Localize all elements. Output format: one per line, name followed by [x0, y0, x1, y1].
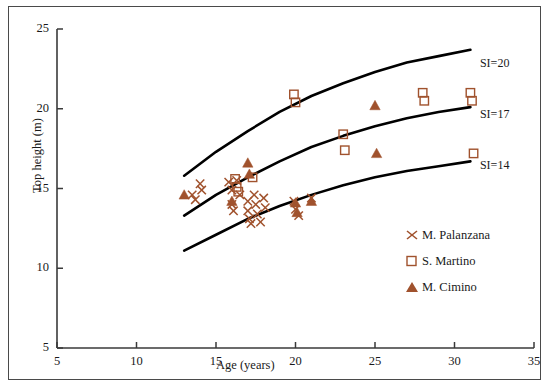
legend-label: M. Palanzana — [422, 228, 490, 243]
legend-square-icon — [404, 254, 420, 268]
x-tick-label: 35 — [519, 354, 549, 369]
x-tick-label: 25 — [360, 354, 390, 369]
si-curve — [184, 50, 470, 176]
marker-square — [341, 146, 349, 154]
legend-triangle-icon — [404, 280, 420, 294]
x-tick-label: 5 — [42, 354, 72, 369]
marker-square — [466, 89, 474, 97]
legend-label: M. Cimino — [422, 280, 477, 295]
x-tick-label: 10 — [122, 354, 152, 369]
si-curve-label: SI=17 — [480, 107, 509, 122]
chart-svg — [0, 0, 551, 390]
si-curve-label: SI=14 — [480, 158, 509, 173]
marker-square — [469, 149, 477, 157]
marker-triangle — [370, 100, 380, 109]
marker-square — [419, 89, 427, 97]
y-tick-label: 25 — [23, 21, 49, 36]
legend-item[interactable]: M. Cimino — [404, 274, 490, 300]
y-tick-label: 10 — [23, 260, 49, 275]
si-curve — [184, 107, 470, 215]
chart-legend: M. PalanzanaS. MartinoM. Cimino — [404, 222, 490, 300]
marker-square — [290, 90, 298, 98]
legend-cross-icon — [404, 228, 420, 242]
y-tick-label: 5 — [23, 340, 49, 355]
x-tick-label: 20 — [281, 354, 311, 369]
y-tick-label: 15 — [23, 181, 49, 196]
legend-label: S. Martino — [422, 254, 475, 269]
marker-triangle — [371, 148, 381, 157]
si-curve-label: SI=20 — [480, 56, 509, 71]
y-tick-label: 20 — [23, 101, 49, 116]
marker-square — [468, 97, 476, 105]
x-tick-label: 30 — [440, 354, 470, 369]
legend-item[interactable]: M. Palanzana — [404, 222, 490, 248]
legend-item[interactable]: S. Martino — [404, 248, 490, 274]
chart-canvas — [0, 0, 551, 390]
marker-triangle — [243, 158, 253, 167]
x-tick-label: 15 — [201, 354, 231, 369]
marker-square — [420, 97, 428, 105]
